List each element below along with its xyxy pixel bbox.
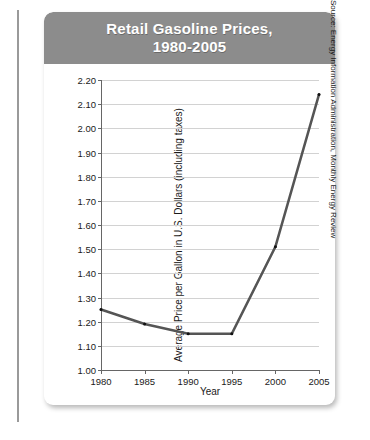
x-axis-tick xyxy=(232,370,233,374)
figure-card: Retail Gasoline Prices, 1980-2005 Averag… xyxy=(44,12,335,405)
y-axis-tick-label: 1.30 xyxy=(78,292,97,303)
plot-frame: 2.202.102.001.901.801.701.601.501.401.30… xyxy=(101,80,319,370)
data-point-marker xyxy=(230,332,233,335)
data-point-marker xyxy=(143,323,146,326)
x-axis-title: Year xyxy=(101,386,319,397)
y-axis-tick-label: 1.70 xyxy=(78,195,97,206)
data-point-marker xyxy=(187,332,190,335)
y-axis-tick-label: 1.50 xyxy=(78,244,97,255)
y-axis-tick-label: 1.60 xyxy=(78,220,97,231)
chart-title-line-2: 1980-2005 xyxy=(153,38,227,55)
data-point-marker xyxy=(274,245,277,248)
page-margin-rule xyxy=(17,10,19,422)
data-line xyxy=(101,95,319,334)
data-point-marker xyxy=(100,308,103,311)
x-axis-line xyxy=(101,370,319,371)
y-axis-tick-label: 2.20 xyxy=(78,75,97,86)
y-axis-tick-label: 1.40 xyxy=(78,268,97,279)
x-axis-tick xyxy=(188,370,189,374)
chart-title-line-1: Retail Gasoline Prices, xyxy=(106,20,272,37)
y-axis-tick-label: 1.10 xyxy=(78,340,97,351)
chart-plot-container: Average Price per Gallon in U.S. Dollars… xyxy=(44,64,335,405)
source-note: Source: Energy Information Administratio… xyxy=(329,0,341,400)
y-axis-tick-label: 2.10 xyxy=(78,99,97,110)
x-axis-tick xyxy=(145,370,146,374)
chart-title: Retail Gasoline Prices, 1980-2005 xyxy=(106,20,272,56)
x-axis-tick xyxy=(101,370,102,374)
y-axis-tick-label: 2.00 xyxy=(78,123,97,134)
data-point-marker xyxy=(318,93,321,96)
chart-title-banner: Retail Gasoline Prices, 1980-2005 xyxy=(44,12,335,64)
x-axis-tick xyxy=(319,370,320,374)
y-axis-tick-label: 1.00 xyxy=(78,365,97,376)
y-axis-tick-label: 1.80 xyxy=(78,171,97,182)
y-axis-tick-label: 1.90 xyxy=(78,147,97,158)
data-series-line xyxy=(101,80,319,370)
y-axis-tick-label: 1.20 xyxy=(78,316,97,327)
x-axis-tick xyxy=(275,370,276,374)
